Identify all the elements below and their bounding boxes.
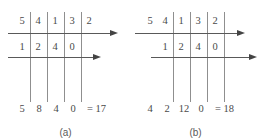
diagram-b-equals-total: = 18 xyxy=(215,103,234,114)
diagram-b-arrowhead-2 xyxy=(249,54,257,60)
diagram-b: 5 4 1 3 2 1 2 4 0 4 2 12 0 = 18 xyxy=(130,0,261,140)
diagram-b-middle-digit-1: 2 xyxy=(174,41,188,52)
diagram-a-result-digit-3: 0 xyxy=(66,103,80,114)
diagram-b-middle-digit-3: 0 xyxy=(208,41,222,52)
diagram-a-plot: 5 4 1 3 2 1 2 4 0 5 8 4 0 = 17 xyxy=(0,0,131,118)
diagram-a-result-digit-2: 4 xyxy=(49,103,63,114)
diagram-b-top-digit-3: 3 xyxy=(191,15,205,26)
diagram-b-top-digit-2: 1 xyxy=(174,15,188,26)
diagram-a-top-digit-2: 1 xyxy=(48,15,62,26)
diagram-b-middle-digit-0: 1 xyxy=(158,41,172,52)
diagram-a-arrowhead-2 xyxy=(93,54,101,60)
diagram-a-equals-total: = 17 xyxy=(87,103,106,114)
diagram-b-result-digit-2: 12 xyxy=(174,103,194,114)
diagram-b-arrowhead-1 xyxy=(237,30,245,36)
diagram-a-result-digit-0: 5 xyxy=(15,103,29,114)
diagram-a-middle-digit-2: 4 xyxy=(48,41,62,52)
diagram-a-top-digit-4: 2 xyxy=(82,15,96,26)
diagram-a-arrow-line-2 xyxy=(8,57,95,58)
diagram-b-top-digit-4: 2 xyxy=(208,15,222,26)
diagram-b-arrow-line-1 xyxy=(135,33,239,34)
diagram-b-caption: (b) xyxy=(130,127,261,138)
diagram-b-top-digit-0: 5 xyxy=(143,15,157,26)
diagram-a-arrowhead-1 xyxy=(110,30,118,36)
diagram-a-top-digit-1: 4 xyxy=(31,15,45,26)
diagram-a-top-digit-3: 3 xyxy=(65,15,79,26)
diagram-b-middle-digit-2: 4 xyxy=(191,41,205,52)
diagram-b-result-digit-0: 4 xyxy=(143,103,157,114)
lattice-multiplication-figure-pair: 5 4 1 3 2 1 2 4 0 5 8 4 0 = 17 xyxy=(0,0,261,140)
diagram-b-plot: 5 4 1 3 2 1 2 4 0 4 2 12 0 = 18 xyxy=(130,0,261,118)
diagram-b-arrow-line-2 xyxy=(151,57,251,58)
diagram-b-top-digit-1: 4 xyxy=(158,15,172,26)
diagram-a-middle-digit-1: 2 xyxy=(31,41,45,52)
diagram-a-arrow-line-1 xyxy=(8,33,112,34)
diagram-a: 5 4 1 3 2 1 2 4 0 5 8 4 0 = 17 xyxy=(0,0,131,140)
diagram-b-result-digit-3: 0 xyxy=(194,103,208,114)
diagram-a-middle-digit-0: 1 xyxy=(15,41,29,52)
diagram-a-caption: (a) xyxy=(0,127,131,138)
diagram-a-result-digit-1: 8 xyxy=(32,103,46,114)
diagram-b-result-digit-1: 2 xyxy=(160,103,174,114)
diagram-a-top-digit-0: 5 xyxy=(15,15,29,26)
diagram-a-middle-digit-3: 0 xyxy=(65,41,79,52)
